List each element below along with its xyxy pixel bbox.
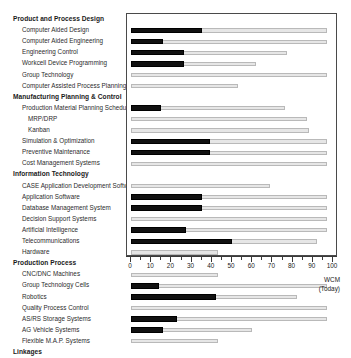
- target-bar: [131, 184, 270, 188]
- category-label: Workcell Device Programming: [0, 57, 126, 68]
- x-axis-tick-label: 20: [167, 262, 174, 270]
- bar-rows-container: [127, 14, 336, 255]
- category-label: Information Technology: [0, 168, 126, 179]
- current-bar: [131, 105, 161, 111]
- x-axis-minor-tick: [140, 256, 141, 260]
- category-label: Simulation & Optimization: [0, 135, 126, 146]
- bar-row: [127, 292, 336, 303]
- category-item: Preventive Maintenance: [0, 146, 126, 157]
- current-bar: [131, 327, 163, 333]
- bar-row: [127, 269, 336, 280]
- current-bar: [131, 294, 216, 300]
- target-bar: [131, 339, 218, 343]
- bar-row: [127, 14, 336, 25]
- category-label: Cost Management Systems: [0, 157, 126, 168]
- category-item: Computer Aided Design: [0, 24, 126, 35]
- bar-row: [127, 158, 336, 169]
- bar-row: [127, 47, 336, 58]
- category-item: Quality Process Control: [0, 302, 126, 313]
- x-axis-tick-label: 70: [268, 262, 275, 270]
- category-item: Hardware: [0, 246, 126, 257]
- category-label: Quality Process Control: [0, 302, 126, 313]
- category-label: Decision Support Systems: [0, 213, 126, 224]
- x-axis-tick-label: 40: [207, 262, 214, 270]
- bar-row: [127, 314, 336, 325]
- category-label: Computer Aided Engineering: [0, 35, 126, 46]
- category-item: Workcell Device Programming: [0, 57, 126, 68]
- category-header: Information Technology: [0, 168, 126, 179]
- target-bar: [131, 217, 327, 221]
- category-item: Production Material Planning Scheduling: [0, 102, 126, 113]
- x-axis-caption-line1: WCM: [319, 275, 340, 284]
- current-bar: [131, 39, 163, 45]
- category-label: Hardware: [0, 246, 126, 257]
- bar-row: [127, 192, 336, 203]
- category-item: Database Management System: [0, 202, 126, 213]
- bar-row: [127, 81, 336, 92]
- category-label: Computer Assisted Process Planning: [0, 80, 126, 91]
- bar-row: [127, 280, 336, 291]
- bar-row: [127, 114, 336, 125]
- category-label: Artificial Intelligence: [0, 224, 126, 235]
- current-bar: [131, 239, 232, 245]
- target-bar: [131, 73, 327, 77]
- current-bar: [131, 227, 186, 233]
- category-label: CASE Application Development Software: [0, 180, 126, 191]
- target-bar: [131, 128, 309, 132]
- target-bar: [131, 284, 327, 288]
- current-bar: [131, 28, 202, 34]
- x-axis-tick-label: 50: [227, 262, 234, 270]
- bar-row: [127, 70, 336, 81]
- bar-row: [127, 347, 336, 358]
- bar-row: [127, 336, 336, 347]
- x-axis-tick-label: 10: [147, 262, 154, 270]
- bar-row: [127, 147, 336, 158]
- category-item: Robotics: [0, 291, 126, 302]
- x-axis-tick-label: 30: [187, 262, 194, 270]
- x-axis-minor-tick: [261, 256, 262, 260]
- category-label: Database Management System: [0, 202, 126, 213]
- x-axis-caption: WCM (Today): [319, 275, 340, 293]
- x-axis-minor-tick: [282, 256, 283, 260]
- category-label: AS/RS Storage Systems: [0, 313, 126, 324]
- category-item: Flexible M.A.P. Systems: [0, 335, 126, 346]
- category-item: Artificial Intelligence: [0, 224, 126, 235]
- category-item: Computer Assisted Process Planning: [0, 80, 126, 91]
- target-bar: [131, 250, 218, 254]
- category-header: Linkages: [0, 346, 126, 357]
- target-bar: [131, 162, 327, 166]
- category-item: Engineering Control: [0, 46, 126, 57]
- target-bar: [131, 84, 238, 88]
- category-label: Telecommunications: [0, 235, 126, 246]
- category-label: Group Technology: [0, 69, 126, 80]
- category-label: Engineering Control: [0, 46, 126, 57]
- category-label: AG Vehicle Systems: [0, 324, 126, 335]
- x-axis-minor-tick: [201, 256, 202, 260]
- bar-row: [127, 125, 336, 136]
- category-item: Kanban: [0, 124, 126, 135]
- x-axis-minor-tick: [221, 256, 222, 260]
- bar-row: [127, 225, 336, 236]
- x-axis-minor-tick: [181, 256, 182, 260]
- category-item: Application Software: [0, 191, 126, 202]
- category-label: Linkages: [0, 346, 126, 357]
- bar-row: [127, 25, 336, 36]
- category-label: Product and Process Design: [0, 13, 126, 24]
- category-label: Robotics: [0, 291, 126, 302]
- current-bar: [131, 139, 210, 145]
- category-label: MRP/DRP: [0, 113, 126, 124]
- category-label-column: Product and Process DesignComputer Aided…: [0, 0, 126, 306]
- category-label: Production Material Planning Scheduling: [0, 102, 126, 113]
- current-bar: [131, 205, 202, 211]
- category-label: Computer Aided Design: [0, 24, 126, 35]
- target-bar: [131, 273, 218, 277]
- category-label: Preventive Maintenance: [0, 146, 126, 157]
- current-bar: [131, 316, 177, 322]
- category-item: Group Technology: [0, 69, 126, 80]
- bar-row: [127, 236, 336, 247]
- current-bar: [131, 61, 184, 67]
- bar-row: [127, 136, 336, 147]
- category-item: CNC/DNC Machines: [0, 268, 126, 279]
- category-item: CASE Application Development Software: [0, 180, 126, 191]
- x-axis-minor-tick: [241, 256, 242, 260]
